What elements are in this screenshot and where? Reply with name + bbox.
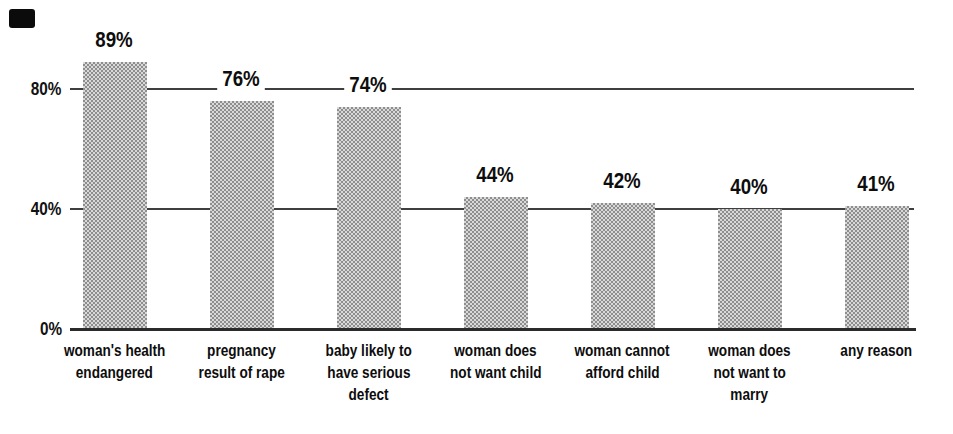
bar <box>210 101 274 329</box>
bar <box>337 107 401 329</box>
bar-chart: 80%40%0%89%woman's healthendangered76%pr… <box>0 0 953 434</box>
y-axis-tick-label: 0% <box>0 319 64 339</box>
y-axis-tick-label: 40% <box>0 199 64 219</box>
bar-category-label: any reason <box>807 340 947 362</box>
bar <box>591 203 655 329</box>
bar-value-label: 89% <box>55 26 175 54</box>
y-axis-tick-label: 80% <box>0 79 64 99</box>
bar-category-label: woman's healthendangered <box>45 340 185 384</box>
bar-value-label: 76% <box>182 65 302 93</box>
bar-category-label: woman cannotafford child <box>553 340 693 384</box>
bar-category-label: woman doesnot want tomarry <box>680 340 820 406</box>
bar-value-label: 44% <box>436 161 556 189</box>
bar-value-label: 42% <box>563 167 683 195</box>
bar-category-label: pregnancyresult of rape <box>172 340 312 384</box>
bar <box>718 209 782 329</box>
bar <box>83 62 147 329</box>
bar <box>845 206 909 329</box>
bar <box>464 197 528 329</box>
bar-value-label: 41% <box>817 170 937 198</box>
bar-category-label: woman doesnot want child <box>426 340 566 384</box>
bar-value-label: 40% <box>690 173 810 201</box>
scan-artifact-mark <box>9 9 35 28</box>
bar-value-label: 74% <box>309 71 429 99</box>
x-axis-baseline <box>70 328 916 331</box>
bar-category-label: baby likely tohave seriousdefect <box>299 340 439 406</box>
